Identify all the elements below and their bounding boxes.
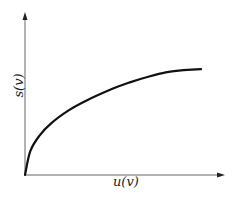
data-curve bbox=[25, 69, 201, 175]
x-axis-arrow-icon bbox=[217, 173, 225, 178]
y-axis-label: s(v) bbox=[11, 70, 26, 102]
y-axis-arrow-icon bbox=[23, 12, 28, 20]
x-axis-label: u(v) bbox=[113, 174, 139, 189]
chart-canvas bbox=[0, 0, 235, 201]
